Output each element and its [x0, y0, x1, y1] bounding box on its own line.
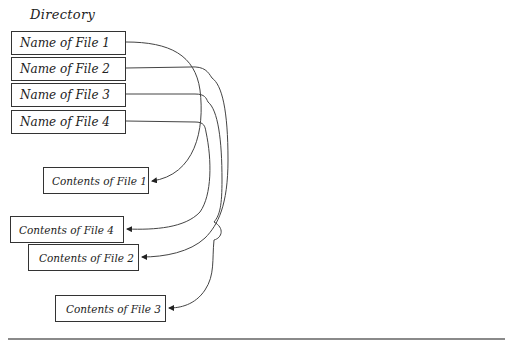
- pointer-file-3: [126, 94, 222, 308]
- pointer-file-2: [126, 67, 228, 257]
- pointer-arrows: [0, 0, 507, 344]
- pointer-file-1: [126, 42, 201, 181]
- bottom-rule: [8, 338, 505, 340]
